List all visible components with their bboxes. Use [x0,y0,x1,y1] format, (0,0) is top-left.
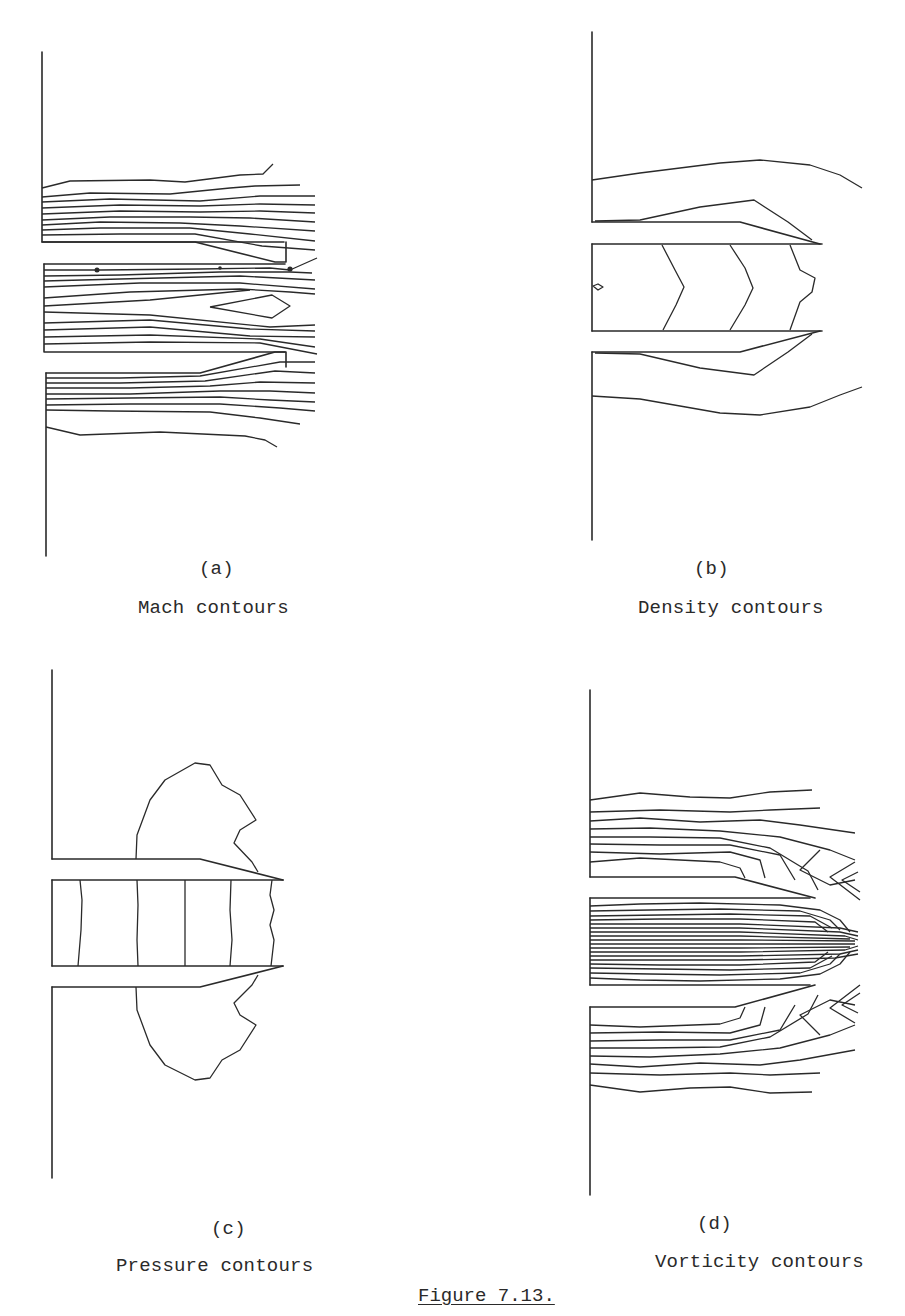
panel-d-tag: (d) [697,1213,732,1235]
panel-c-title: Pressure contours [116,1255,313,1277]
figure-caption: Figure 7.13. [418,1285,555,1307]
figure-page: (a) Mach contours (b) Density contours (… [0,0,905,1316]
panel-b-title: Density contours [638,597,824,619]
panel-a-tag: (a) [199,558,234,580]
panel-c-tag: (c) [211,1218,246,1240]
panel-b-tag: (b) [694,558,729,580]
panel-d-geometry [590,690,815,1195]
panel-d-title: Vorticity contours [655,1251,864,1273]
panel-d-vorticity-contour-plot [0,0,905,1316]
panel-d-contours [590,790,860,1093]
panel-a-title: Mach contours [138,597,289,619]
